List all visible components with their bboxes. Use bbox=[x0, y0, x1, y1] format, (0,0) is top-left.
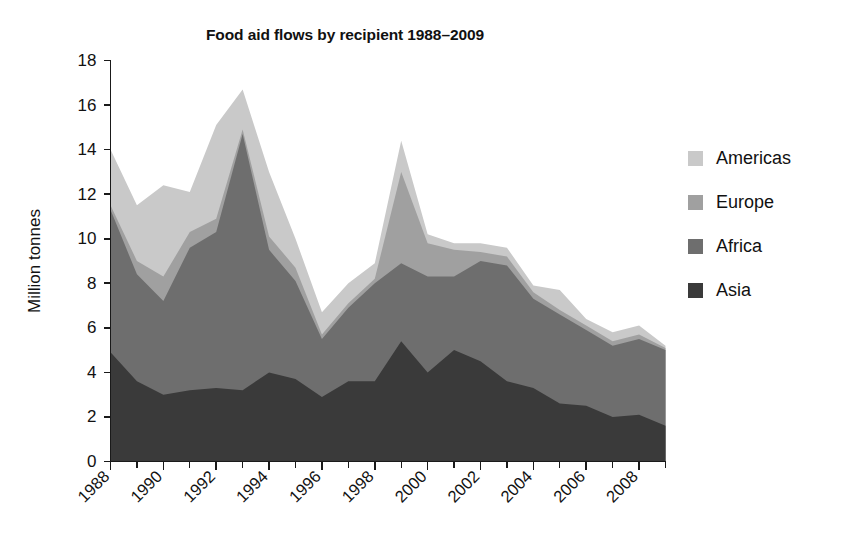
x-tick-label: 1996 bbox=[285, 467, 324, 506]
y-tick-label: 8 bbox=[87, 274, 96, 293]
y-tick-label: 10 bbox=[78, 229, 97, 248]
x-tick-label: 1988 bbox=[74, 467, 113, 506]
y-tick-label: 14 bbox=[78, 140, 97, 159]
y-tick-label: 2 bbox=[87, 407, 96, 426]
x-tick-label: 2004 bbox=[497, 467, 536, 506]
x-tick-label: 2008 bbox=[603, 467, 642, 506]
legend-item-asia[interactable]: Asia bbox=[688, 268, 838, 312]
y-tick-label: 6 bbox=[87, 318, 96, 337]
y-tick-label: 0 bbox=[87, 452, 96, 471]
y-tick-label: 4 bbox=[87, 363, 96, 382]
x-tick-label: 2006 bbox=[550, 467, 589, 506]
x-tick-label: 2000 bbox=[391, 467, 430, 506]
x-tick-label: 1998 bbox=[338, 467, 377, 506]
legend-label: Americas bbox=[716, 149, 791, 167]
stacked-areas bbox=[111, 89, 666, 461]
legend-swatch-icon bbox=[688, 239, 703, 254]
x-tick-label: 2002 bbox=[444, 467, 483, 506]
y-tick-label: 12 bbox=[78, 185, 97, 204]
legend-label: Europe bbox=[716, 193, 774, 211]
legend-item-europe[interactable]: Europe bbox=[688, 180, 838, 224]
chart-figure: Food aid flows by recipient 1988–2009 02… bbox=[0, 0, 843, 550]
x-tick-label: 1990 bbox=[127, 467, 166, 506]
x-tick-label: 1992 bbox=[180, 467, 219, 506]
legend-label: Africa bbox=[716, 237, 762, 255]
y-tick-label: 16 bbox=[78, 96, 97, 115]
x-tick-label: 1994 bbox=[233, 467, 272, 506]
legend-label: Asia bbox=[716, 281, 751, 299]
legend-swatch-icon bbox=[688, 195, 703, 210]
y-axis-ticks: 024681012141618 bbox=[78, 51, 111, 471]
legend-item-africa[interactable]: Africa bbox=[688, 224, 838, 268]
y-axis-label: Million tonnes bbox=[25, 209, 44, 313]
x-axis-ticks: 1988199019921994199619982000200220042006… bbox=[74, 462, 666, 506]
legend-swatch-icon bbox=[688, 283, 703, 298]
legend-item-americas[interactable]: Americas bbox=[688, 136, 838, 180]
legend-swatch-icon bbox=[688, 151, 703, 166]
y-axis-title: Million tonnes bbox=[25, 209, 44, 313]
y-tick-label: 18 bbox=[78, 51, 97, 70]
chart-legend: AmericasEuropeAfricaAsia bbox=[688, 136, 838, 312]
